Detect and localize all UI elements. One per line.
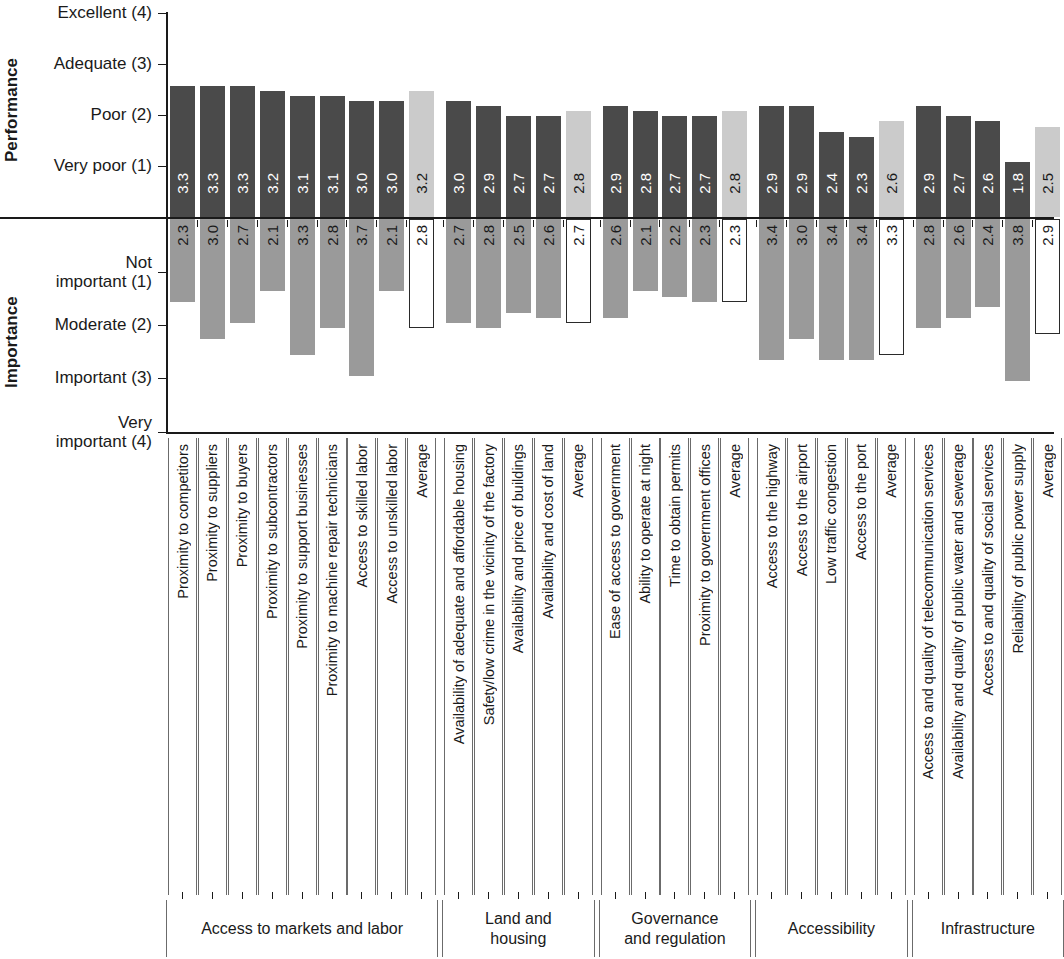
performance-bar bbox=[603, 106, 628, 217]
category-cell: Access to the highway bbox=[757, 438, 786, 895]
performance-bar bbox=[916, 106, 941, 217]
category-tick-mark bbox=[689, 220, 690, 227]
importance-bar-value: 3.4 bbox=[853, 225, 870, 246]
performance-bar bbox=[506, 116, 531, 217]
category-label: Proximity to machine repair technicians bbox=[324, 444, 340, 696]
group-box: Land and housing bbox=[442, 900, 595, 957]
group-tick-mark bbox=[548, 892, 549, 899]
performance-bar-value: 2.4 bbox=[823, 173, 840, 194]
category-label: Access to and quality of social services bbox=[980, 444, 996, 695]
category-tick-mark bbox=[346, 220, 347, 227]
category-label: Proximity to subcontractors bbox=[264, 444, 280, 619]
performance-bar-value: 2.8 bbox=[726, 173, 743, 194]
performance-bar-value: 2.9 bbox=[763, 173, 780, 194]
group-tick-mark bbox=[674, 892, 675, 899]
category-cell: Access to and quality of social services bbox=[973, 438, 1002, 895]
category-tick-mark bbox=[913, 220, 914, 227]
performance-bar-value: 2.7 bbox=[696, 173, 713, 194]
category-cell: Ease of access to government bbox=[601, 438, 630, 895]
group-tick-mark bbox=[578, 892, 579, 899]
performance-bar-value: 2.7 bbox=[666, 173, 683, 194]
category-label: Reliability of public power supply bbox=[1010, 444, 1026, 654]
group-box: Access to markets and labor bbox=[166, 900, 438, 957]
group-tick-mark bbox=[645, 892, 646, 899]
category-tick-mark bbox=[257, 220, 258, 227]
importance-bar-value: 2.1 bbox=[383, 225, 400, 246]
group-tick-mark bbox=[891, 892, 892, 899]
category-label: Availability of adequate and affordable … bbox=[451, 444, 467, 744]
category-tick-mark bbox=[317, 220, 318, 227]
performance-bar-value: 3.0 bbox=[450, 173, 467, 194]
category-cell: Availability of adequate and affordable … bbox=[444, 438, 473, 895]
importance-bar-value: 2.7 bbox=[570, 225, 587, 246]
importance-bar-value: 2.8 bbox=[324, 225, 341, 246]
performance-bar-value: 2.7 bbox=[510, 173, 527, 194]
category-label: Access to the highway bbox=[764, 444, 780, 588]
category-tick-mark bbox=[719, 220, 720, 227]
category-cell: Availability and cost of land bbox=[534, 438, 563, 895]
category-cell: Low traffic congestion bbox=[817, 438, 846, 895]
category-cell: Proximity to suppliers bbox=[198, 438, 227, 895]
performance-bar bbox=[722, 111, 747, 217]
category-label: Proximity to buyers bbox=[234, 444, 250, 567]
category-tick-mark bbox=[816, 220, 817, 227]
group-tick-mark bbox=[421, 892, 422, 899]
group-tick-mark bbox=[958, 892, 959, 899]
performance-bar bbox=[349, 101, 374, 217]
category-cell: Average bbox=[877, 438, 906, 895]
category-label: Average bbox=[570, 444, 586, 498]
performance-bar bbox=[566, 111, 591, 217]
performance-bar-value: 2.3 bbox=[853, 173, 870, 194]
importance-tick-mark bbox=[158, 272, 166, 273]
performance-bar-value: 2.8 bbox=[637, 173, 654, 194]
importance-bar-value: 3.7 bbox=[353, 225, 370, 246]
category-tick-mark bbox=[659, 220, 660, 227]
importance-bar-value: 3.0 bbox=[793, 225, 810, 246]
category-cell: Average bbox=[564, 438, 593, 895]
category-cell: Average bbox=[720, 438, 749, 895]
category-cell: Reliability of public power supply bbox=[1003, 438, 1032, 895]
importance-bar-value: 2.8 bbox=[480, 225, 497, 246]
importance-bar-value: 2.4 bbox=[979, 225, 996, 246]
performance-bar bbox=[260, 91, 285, 217]
performance-tick-label: Excellent (4) bbox=[0, 3, 152, 22]
importance-bar-value: 2.2 bbox=[666, 225, 683, 246]
category-tick-mark bbox=[167, 220, 168, 227]
group-label: Land and housing bbox=[485, 909, 552, 949]
importance-tick-label: Important (3) bbox=[0, 368, 152, 387]
performance-bar bbox=[379, 101, 404, 217]
category-label: Ability to operate at night bbox=[637, 444, 653, 604]
importance-bar-value: 2.7 bbox=[234, 225, 251, 246]
category-label: Average bbox=[727, 444, 743, 498]
performance-tick-mark bbox=[158, 115, 166, 116]
category-cell: Access to the airport bbox=[787, 438, 816, 895]
importance-bar-value: 2.8 bbox=[413, 225, 430, 246]
category-cell: Proximity to support businesses bbox=[288, 438, 317, 895]
performance-bar-value: 2.6 bbox=[979, 173, 996, 194]
importance-bottom-axis bbox=[166, 432, 1054, 434]
group-tick-mark bbox=[518, 892, 519, 899]
category-label: Availability and price of buildings bbox=[510, 444, 526, 653]
performance-bar bbox=[879, 121, 904, 217]
performance-bar-value: 3.3 bbox=[234, 173, 251, 194]
category-cell: Proximity to government offices bbox=[690, 438, 719, 895]
performance-tick-label: Very poor (1) bbox=[0, 156, 152, 175]
category-tick-mark bbox=[376, 220, 377, 227]
performance-bar-value: 3.1 bbox=[324, 173, 341, 194]
performance-bar-value: 2.5 bbox=[1039, 173, 1056, 194]
performance-bar-value: 2.9 bbox=[607, 173, 624, 194]
performance-bar-value: 2.8 bbox=[570, 173, 587, 194]
importance-tick-label: Moderate (2) bbox=[0, 315, 152, 334]
category-cell: Access to skilled labor bbox=[347, 438, 376, 895]
category-label: Proximity to competitors bbox=[175, 444, 191, 599]
group-tick-mark bbox=[734, 892, 735, 899]
importance-bar-value: 3.4 bbox=[823, 225, 840, 246]
performance-bar bbox=[170, 86, 195, 217]
category-label: Average bbox=[414, 444, 430, 498]
category-label: Proximity to support businesses bbox=[294, 444, 310, 649]
performance-bar bbox=[975, 121, 1000, 217]
group-label: Accessibility bbox=[788, 919, 875, 939]
performance-bar-value: 2.9 bbox=[793, 173, 810, 194]
category-tick-mark bbox=[1032, 220, 1033, 227]
